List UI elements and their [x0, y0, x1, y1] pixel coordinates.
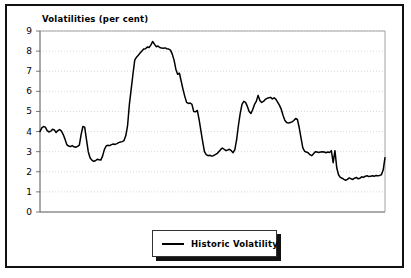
y-axis-tick-label: 5 — [16, 106, 32, 116]
chart-title: Volatilities (per cent) — [42, 14, 148, 24]
chart-figure: Volatilities (per cent) 0123456789 Histo… — [0, 0, 411, 278]
y-axis-tick-label: 8 — [16, 46, 32, 56]
y-axis-tick-label: 0 — [16, 207, 32, 217]
y-axis-tick-label: 1 — [16, 187, 32, 197]
y-axis-tick-label: 4 — [16, 127, 32, 137]
outer-border-frame — [5, 4, 404, 268]
y-axis-tick-label: 2 — [16, 167, 32, 177]
y-axis-tick-label: 6 — [16, 86, 32, 96]
y-axis-tick-label: 3 — [16, 147, 32, 157]
y-axis-tick-label: 9 — [16, 26, 32, 36]
legend-entry-label: Historic Volatility — [191, 239, 278, 249]
legend-line-swatch — [162, 243, 184, 245]
chart-legend: Historic Volatility — [152, 230, 277, 257]
y-axis-tick-label: 7 — [16, 66, 32, 76]
